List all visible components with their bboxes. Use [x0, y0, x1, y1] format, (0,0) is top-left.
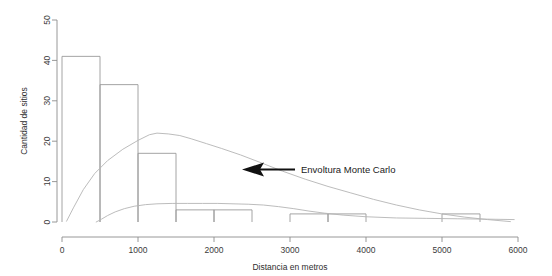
y-axis-title: Cantidad de sitios [19, 87, 29, 155]
x-tick-label-5000: 5000 [433, 245, 452, 255]
y-tick-label-30: 30 [42, 96, 52, 106]
annotation-label: Envoltura Monte Carlo [301, 164, 396, 175]
y-axis: 50 40 30 20 10 0 Cantidad de sitios [19, 15, 57, 224]
chart-screenshot: 50 40 30 20 10 0 Cantidad de sitios 0 10… [0, 0, 552, 276]
x-axis-title: Distancia en metros [252, 262, 327, 272]
x-tick-label-6000: 6000 [509, 245, 528, 255]
histogram-bar [100, 85, 138, 222]
y-tick-label-0: 0 [42, 219, 52, 224]
histogram-chart: 50 40 30 20 10 0 Cantidad de sitios 0 10… [0, 0, 552, 276]
x-axis: 0 1000 2000 3000 4000 5000 6000 Distanci… [60, 237, 528, 272]
x-tick-label-3000: 3000 [281, 245, 300, 255]
x-tick-label-4000: 4000 [357, 245, 376, 255]
histogram-bar [138, 153, 176, 222]
y-tick-label-10: 10 [42, 177, 52, 187]
y-tick-label-40: 40 [42, 55, 52, 65]
monte-carlo-envelope [67, 133, 515, 222]
x-tick-label-0: 0 [60, 245, 65, 255]
y-tick-label-20: 20 [42, 136, 52, 146]
histogram-bars [62, 56, 480, 222]
y-tick-label-50: 50 [42, 15, 52, 25]
x-tick-label-2000: 2000 [205, 245, 224, 255]
envelope-curve [96, 203, 514, 222]
histogram-bar [176, 210, 214, 222]
histogram-bar [62, 56, 100, 222]
histogram-bar [214, 210, 252, 222]
histogram-bar [290, 214, 328, 222]
x-tick-label-1000: 1000 [129, 245, 148, 255]
